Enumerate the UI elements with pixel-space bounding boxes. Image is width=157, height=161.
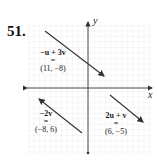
- label-neg-2v: −2v = (−8, 6): [32, 110, 60, 134]
- vector-value: (−8, 6): [32, 126, 60, 134]
- y-axis-label: y: [93, 15, 97, 26]
- label-2u-plus-v: 2u + v = (6, −5): [100, 112, 132, 136]
- vector-value: (6, −5): [100, 128, 132, 136]
- vector-value: (11, −8): [34, 65, 72, 73]
- x-axis-label: x: [148, 89, 152, 100]
- label-neg-u-plus-3v: −u + 3v = (11, −8): [34, 49, 72, 73]
- coordinate-plane: [0, 0, 157, 161]
